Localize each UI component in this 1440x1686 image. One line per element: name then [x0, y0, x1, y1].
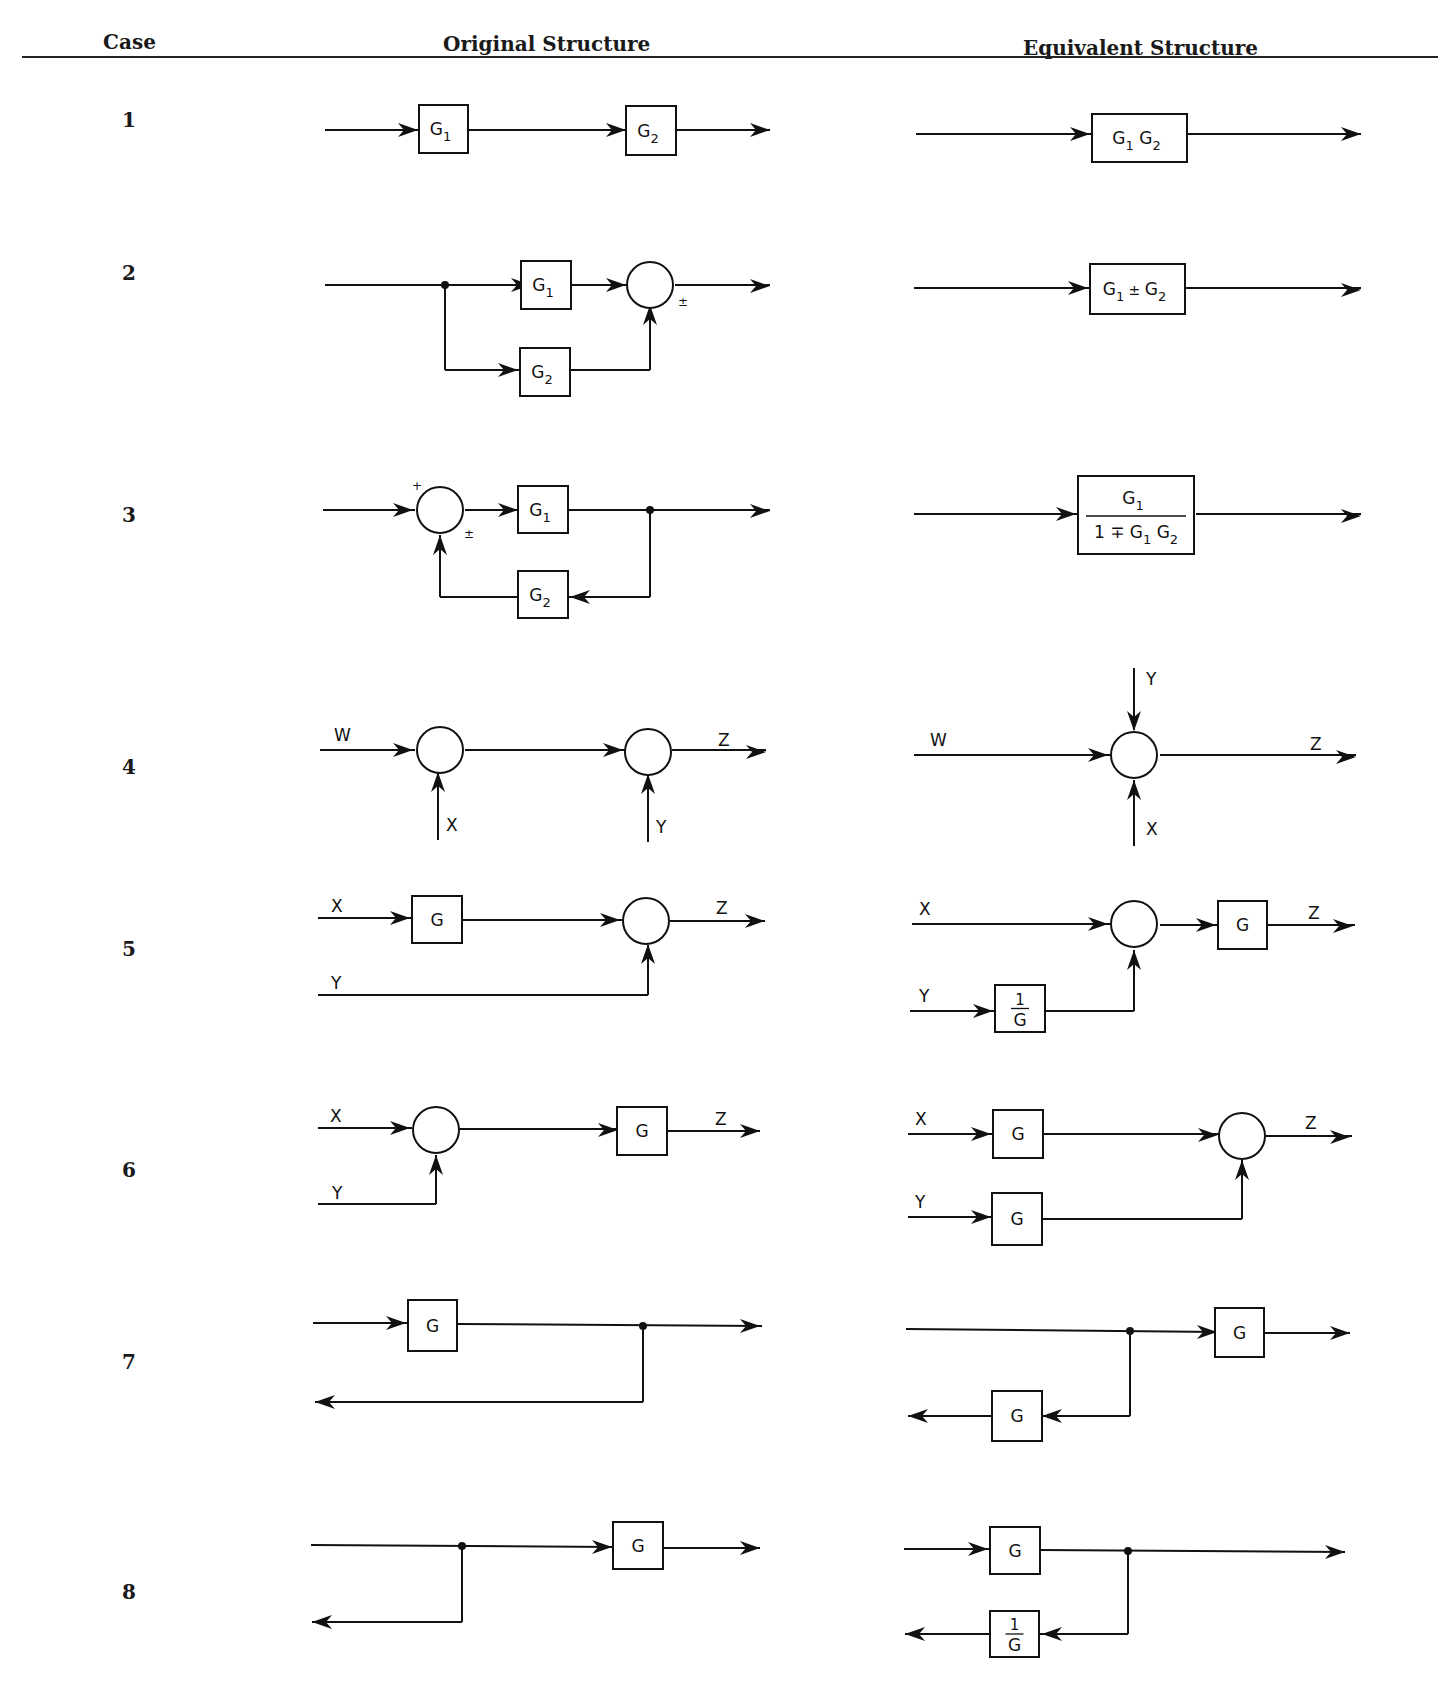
- summing-junction: [625, 729, 671, 775]
- signal-label: Z: [718, 730, 730, 750]
- transfer-block: G: [408, 1300, 457, 1351]
- signal-label: Z: [1308, 903, 1320, 923]
- block-numerator: 1: [1015, 991, 1025, 1009]
- transfer-block: G2: [518, 571, 568, 618]
- signal-label: X: [915, 1109, 927, 1129]
- transfer-block: 1G: [990, 1611, 1039, 1657]
- block-label: G: [430, 910, 443, 930]
- signal-line: [906, 1329, 1219, 1332]
- signal-label: Y: [331, 1183, 343, 1203]
- signal-label: X: [1146, 819, 1158, 839]
- block-label: G: [1010, 1406, 1023, 1426]
- block-label: G: [1008, 1541, 1021, 1561]
- transfer-block: G2: [626, 106, 676, 155]
- block-label: G: [1233, 1323, 1246, 1343]
- branch-point-dot: [1124, 1547, 1132, 1555]
- summing-junction: [417, 727, 463, 773]
- summing-junction: [627, 262, 673, 308]
- branch-points: [441, 281, 1134, 1555]
- transfer-block: G: [990, 1527, 1040, 1574]
- block-numerator: 1: [1010, 1616, 1020, 1634]
- branch-point-dot: [639, 1322, 647, 1330]
- signal-labels: +±±WXYZWYXZXYZXYZXYZXYZ: [330, 295, 1322, 1212]
- transfer-block: G: [992, 1193, 1042, 1245]
- transfer-block: G: [613, 1522, 663, 1569]
- block-label: G: [1010, 1209, 1023, 1229]
- signal-label: +: [412, 479, 422, 493]
- transfer-block: G: [992, 1391, 1042, 1441]
- summing-junction: [1219, 1113, 1265, 1159]
- transfer-block: G: [993, 1110, 1043, 1158]
- signal-lines: [311, 130, 1361, 1634]
- signal-label: X: [919, 899, 931, 919]
- transfer-block: G1: [419, 105, 468, 153]
- signal-label: W: [930, 730, 947, 750]
- transfer-block: G2: [520, 348, 570, 396]
- branch-point-dot: [458, 1542, 466, 1550]
- signal-label: W: [334, 725, 351, 745]
- transfer-block: G: [617, 1107, 667, 1155]
- transfer-block: G1 G2: [1092, 114, 1187, 162]
- signal-label: Z: [1305, 1113, 1317, 1133]
- signal-label: X: [446, 815, 458, 835]
- block-label: G: [635, 1121, 648, 1141]
- transfer-block: G1 ± G2: [1090, 264, 1185, 314]
- summing-junction: [1111, 901, 1157, 947]
- block-diagram-reduction-table: G1G2G1 G2G1G2G1 ± G2G1G2GG1GGGGGGGGG1GG1…: [0, 0, 1440, 1686]
- block-label: G: [1236, 915, 1249, 935]
- block-label: G: [426, 1316, 439, 1336]
- signal-label: Z: [715, 1109, 727, 1129]
- signal-label: Y: [330, 973, 342, 993]
- arrowheads: [312, 123, 1361, 1641]
- signal-label: Z: [716, 898, 728, 918]
- signal-label: ±: [678, 295, 688, 309]
- summing-junction: [413, 1107, 459, 1153]
- closed-loop-transfer-block: G11 ∓ G1 G2: [1078, 476, 1194, 554]
- signal-label: Y: [1145, 669, 1157, 689]
- arrowhead-icon: [1341, 509, 1361, 523]
- branch-point-dot: [441, 281, 449, 289]
- transfer-block: G1: [518, 486, 568, 533]
- arrowhead-icon: [1336, 750, 1356, 764]
- transfer-block: G1: [521, 261, 571, 309]
- transfer-blocks: G1G2G1 G2G1G2G1 ± G2G1G2GG1GGGGGGGGG1GG1…: [408, 105, 1267, 1657]
- signal-label: X: [330, 1106, 342, 1126]
- branch-point-dot: [1126, 1327, 1134, 1335]
- signal-line: [457, 1324, 762, 1326]
- signal-label: Z: [1310, 734, 1322, 754]
- block-denominator: G: [1013, 1010, 1026, 1030]
- summing-junction: [1111, 732, 1157, 778]
- transfer-block: G: [1218, 901, 1267, 949]
- block-denominator: G: [1008, 1635, 1021, 1655]
- transfer-block: G: [1215, 1308, 1264, 1357]
- branch-point-dot: [646, 506, 654, 514]
- block-label: G: [1011, 1124, 1024, 1144]
- signal-label: ±: [464, 527, 474, 541]
- summing-junction: [417, 487, 463, 533]
- signal-label: Y: [918, 986, 930, 1006]
- block-label: G: [631, 1536, 644, 1556]
- signal-line: [1040, 1550, 1345, 1552]
- signal-label: X: [331, 896, 343, 916]
- transfer-block: G: [412, 896, 462, 943]
- summing-junction: [623, 898, 669, 944]
- transfer-block: 1G: [995, 985, 1045, 1032]
- arrowhead-icon: [1341, 283, 1361, 297]
- arrowhead-icon: [746, 745, 766, 759]
- signal-label: Y: [914, 1192, 926, 1212]
- signal-label: Y: [655, 817, 667, 837]
